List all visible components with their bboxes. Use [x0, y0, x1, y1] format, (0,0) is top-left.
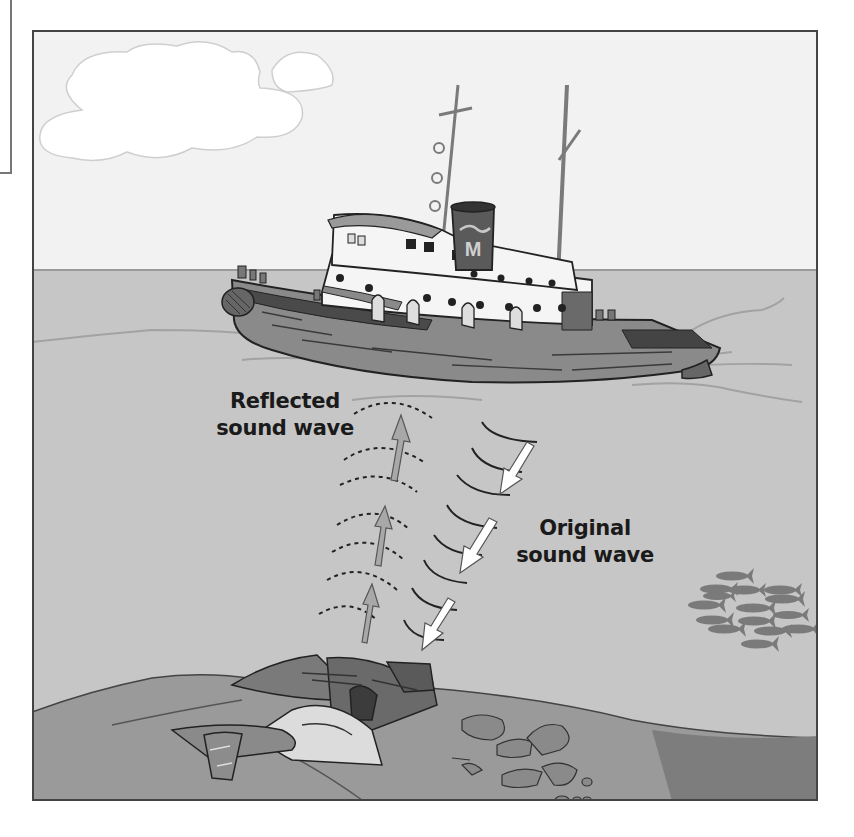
label-line: sound wave: [510, 542, 660, 569]
funnel-logo: M: [465, 238, 482, 260]
original-sound-wave-label: Original sound wave: [510, 515, 660, 569]
adjacent-figure-frame-edge: [0, 0, 12, 174]
sonar-illustration: M: [32, 30, 818, 801]
label-line: Reflected: [210, 388, 360, 415]
label-line: sound wave: [210, 415, 360, 442]
label-line: Original: [510, 515, 660, 542]
reflected-sound-wave-label: Reflected sound wave: [210, 388, 360, 442]
